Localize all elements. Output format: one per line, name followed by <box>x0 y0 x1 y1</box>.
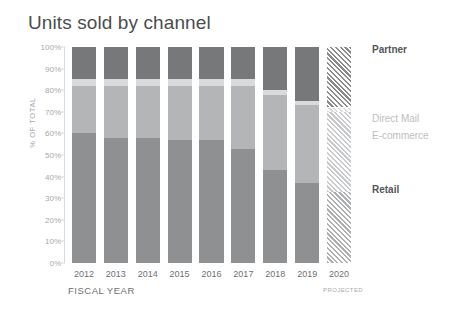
y-axis-tick-mark <box>61 176 65 177</box>
y-axis-tick-label: 70% <box>45 107 61 116</box>
bar-segment-directmail[interactable] <box>295 101 319 105</box>
bar-segment-partner[interactable] <box>168 47 192 79</box>
y-axis-tick-label: 10% <box>45 237 61 246</box>
chart-title: Units sold by channel <box>28 12 211 34</box>
legend-item-partner[interactable]: Partner <box>372 44 407 55</box>
projected-note: PROJECTED <box>323 287 355 293</box>
bar-segment-partner[interactable] <box>295 47 319 101</box>
y-axis-tick-mark <box>61 198 65 199</box>
x-axis-tick-label: 2014 <box>132 269 164 279</box>
legend-item-direct-mail[interactable]: Direct Mail <box>372 113 419 124</box>
y-axis-tick-label: 60% <box>45 129 61 138</box>
bar-segment-partner[interactable] <box>136 47 160 79</box>
legend-item-e-commerce[interactable]: E-commerce <box>372 130 429 141</box>
bar-2018[interactable] <box>263 47 287 263</box>
bar-segment-ecommerce[interactable] <box>327 112 351 192</box>
bar-segment-ecommerce[interactable] <box>295 105 319 183</box>
y-axis-tick-mark <box>61 47 65 48</box>
y-axis-tick-mark <box>61 68 65 69</box>
bar-segment-directmail[interactable] <box>136 79 160 85</box>
bar-segment-directmail[interactable] <box>263 90 287 94</box>
x-axis-tick-label: 2013 <box>100 269 132 279</box>
bar-segment-partner[interactable] <box>231 47 255 79</box>
y-axis-tick-mark <box>61 155 65 156</box>
bar-segment-directmail[interactable] <box>327 108 351 112</box>
bar-2017[interactable] <box>231 47 255 263</box>
bar-segment-ecommerce[interactable] <box>104 86 128 138</box>
bar-segment-retail[interactable] <box>295 183 319 263</box>
plot-area: 0%10%20%30%40%50%60%70%80%90%100% 201220… <box>68 47 355 263</box>
bar-segment-ecommerce[interactable] <box>72 86 96 134</box>
y-axis-tick-label: 40% <box>45 172 61 181</box>
bar-segment-ecommerce[interactable] <box>136 86 160 138</box>
bar-segment-partner[interactable] <box>263 47 287 90</box>
bar-segment-partner[interactable] <box>72 47 96 79</box>
bar-segment-retail[interactable] <box>263 170 287 263</box>
bar-2016[interactable] <box>199 47 223 263</box>
bar-segment-directmail[interactable] <box>199 79 223 85</box>
y-axis-tick-mark <box>61 111 65 112</box>
bar-segment-retail[interactable] <box>168 140 192 263</box>
y-axis-tick-label: 20% <box>45 215 61 224</box>
bar-segment-directmail[interactable] <box>104 79 128 85</box>
bar-segment-retail[interactable] <box>199 140 223 263</box>
bar-2014[interactable] <box>136 47 160 263</box>
y-axis-tick-mark <box>61 263 65 264</box>
x-axis-tick-label: 2019 <box>291 269 323 279</box>
y-axis-tick-label: 50% <box>45 151 61 160</box>
y-axis-title: % OF TOTAL <box>28 83 37 163</box>
y-axis-tick-mark <box>61 219 65 220</box>
bar-2019[interactable] <box>295 47 319 263</box>
bar-segment-ecommerce[interactable] <box>168 86 192 140</box>
bar-segment-retail[interactable] <box>327 192 351 263</box>
y-axis-tick-label: 0% <box>49 259 61 268</box>
x-axis-tick-label: 2015 <box>164 269 196 279</box>
bar-segment-directmail[interactable] <box>72 79 96 85</box>
bar-segment-retail[interactable] <box>104 138 128 263</box>
bar-segment-retail[interactable] <box>72 133 96 263</box>
bar-segment-retail[interactable] <box>136 138 160 263</box>
bar-2015[interactable] <box>168 47 192 263</box>
legend-item-retail[interactable]: Retail <box>372 184 399 195</box>
bar-segment-partner[interactable] <box>199 47 223 79</box>
y-axis-tick-label: 30% <box>45 194 61 203</box>
bar-segment-ecommerce[interactable] <box>231 86 255 149</box>
bar-2013[interactable] <box>104 47 128 263</box>
bar-segment-ecommerce[interactable] <box>199 86 223 140</box>
bar-segment-partner[interactable] <box>327 47 351 107</box>
bar-segment-retail[interactable] <box>231 149 255 263</box>
bar-segment-ecommerce[interactable] <box>263 95 287 171</box>
x-axis-title: FISCAL YEAR <box>68 285 135 296</box>
y-axis-tick-mark <box>61 90 65 91</box>
y-axis-tick-label: 90% <box>45 64 61 73</box>
bar-2020[interactable] <box>327 47 351 263</box>
y-axis-tick-label: 100% <box>41 43 61 52</box>
bar-segment-directmail[interactable] <box>168 79 192 85</box>
y-axis-tick-mark <box>61 241 65 242</box>
x-axis-tick-label: 2016 <box>196 269 228 279</box>
x-axis-tick-label: 2017 <box>227 269 259 279</box>
y-axis-tick-label: 80% <box>45 86 61 95</box>
x-axis-tick-label: 2018 <box>259 269 291 279</box>
x-axis-tick-label: 2020 <box>323 269 355 279</box>
bar-segment-directmail[interactable] <box>231 79 255 85</box>
stacked-bar-chart: Units sold by channel % OF TOTAL 0%10%20… <box>0 0 471 313</box>
y-axis-tick-mark <box>61 133 65 134</box>
bar-segment-partner[interactable] <box>104 47 128 79</box>
bar-2012[interactable] <box>72 47 96 263</box>
x-axis-tick-label: 2012 <box>68 269 100 279</box>
